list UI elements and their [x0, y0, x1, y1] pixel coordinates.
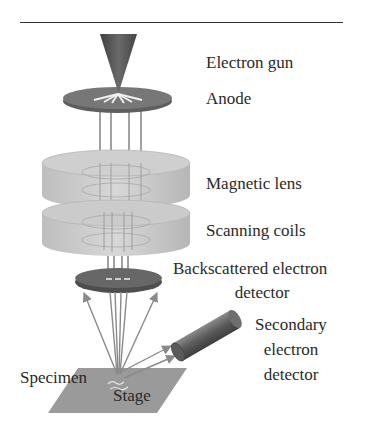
label-electron-gun: Electron gun	[206, 54, 293, 71]
label-specimen: Specimen	[20, 369, 87, 386]
sem-diagram: Electron gun Anode Magnetic lens Scannin…	[0, 0, 371, 434]
label-scanning-coils: Scanning coils	[206, 222, 306, 239]
magnetic-lens-shape	[42, 150, 190, 208]
label-secondary-line1: Secondary	[255, 316, 327, 333]
label-magnetic-lens: Magnetic lens	[206, 175, 302, 192]
label-backscattered-line2: detector	[235, 284, 290, 301]
label-backscattered-line1: Backscattered electron	[173, 260, 327, 277]
label-anode: Anode	[206, 90, 251, 107]
label-stage: Stage	[113, 387, 151, 404]
electron-gun-shape	[100, 34, 137, 93]
scanning-coils-shape	[42, 200, 190, 256]
secondary-detector-shape	[169, 308, 245, 363]
backscattered-detector-shape	[75, 268, 162, 293]
label-secondary-line2: electron	[264, 341, 319, 358]
anode-shape	[63, 87, 172, 113]
label-secondary-line3: detector	[264, 366, 319, 383]
